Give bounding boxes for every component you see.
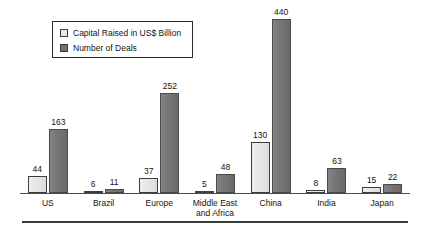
chart-legend: Capital Raised in US$ Billion Number of … — [52, 21, 193, 58]
bar-slot-number-of-deals: 63 — [327, 10, 346, 193]
bar-slot-capital-raised: 130 — [251, 10, 270, 193]
bar-group: 863 — [299, 10, 355, 193]
legend-swatch-number-of-deals — [60, 44, 68, 52]
bar-value-label: 63 — [317, 157, 357, 166]
bar-group-bars: 1522 — [354, 10, 410, 193]
bar-value-label: 440 — [261, 8, 301, 17]
bar-number-of-deals[interactable] — [383, 184, 402, 193]
legend-label-capital-raised: Capital Raised in US$ Billion — [73, 29, 181, 38]
bar-group: 548 — [187, 10, 243, 193]
bar-group: 1522 — [354, 10, 410, 193]
bar-capital-raised[interactable] — [139, 178, 158, 193]
bar-slot-number-of-deals: 440 — [272, 10, 291, 193]
bar-number-of-deals[interactable] — [160, 93, 179, 193]
x-axis-label-line: Japan — [342, 198, 422, 208]
legend-item-number-of-deals: Number of Deals — [60, 41, 192, 55]
bar-group-bars: 863 — [299, 10, 355, 193]
bar-slot-capital-raised: 15 — [362, 10, 381, 193]
bar-number-of-deals[interactable] — [272, 19, 291, 193]
bar-value-label: 163 — [38, 118, 78, 127]
bar-value-label: 48 — [205, 163, 245, 172]
bar-number-of-deals[interactable] — [49, 129, 68, 193]
legend-label-number-of-deals: Number of Deals — [73, 44, 137, 53]
bar-number-of-deals[interactable] — [216, 174, 235, 193]
bar-group-bars: 548 — [187, 10, 243, 193]
x-axis-line — [20, 193, 410, 194]
bar-value-label: 252 — [150, 82, 190, 91]
x-axis-label: Japan — [342, 198, 422, 208]
bar-group: 130440 — [243, 10, 299, 193]
bar-capital-raised[interactable] — [251, 142, 270, 193]
bar-value-label: 22 — [373, 173, 413, 182]
bar-slot-number-of-deals: 22 — [383, 10, 402, 193]
bar-chart: Capital Raised in US$ Billion Number of … — [0, 0, 431, 236]
bottom-divider — [22, 221, 408, 223]
bar-group-bars: 130440 — [243, 10, 299, 193]
x-axis-label-line: and Africa — [175, 208, 255, 218]
bar-number-of-deals[interactable] — [327, 168, 346, 193]
bar-capital-raised[interactable] — [28, 176, 47, 193]
bar-value-label: 11 — [94, 178, 134, 187]
legend-swatch-capital-raised — [60, 29, 68, 37]
bar-slot-number-of-deals: 48 — [216, 10, 235, 193]
legend-item-capital-raised: Capital Raised in US$ Billion — [60, 26, 192, 40]
bar-slot-capital-raised: 44 — [28, 10, 47, 193]
